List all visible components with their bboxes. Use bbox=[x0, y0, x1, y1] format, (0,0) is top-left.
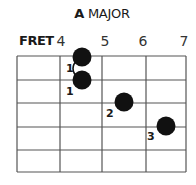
finger-dot bbox=[157, 117, 176, 136]
finger-dots: 1123 bbox=[66, 48, 176, 144]
finger-number: 2 bbox=[106, 107, 114, 120]
finger-number: 1 bbox=[66, 62, 74, 75]
fretboard-grid bbox=[17, 56, 186, 172]
finger-dot bbox=[115, 93, 134, 112]
finger-dot bbox=[73, 48, 92, 67]
finger-number: 3 bbox=[147, 130, 155, 143]
finger-number: 1 bbox=[66, 85, 74, 98]
finger-dot bbox=[73, 71, 92, 90]
fretboard-diagram: 1123 bbox=[0, 0, 196, 185]
